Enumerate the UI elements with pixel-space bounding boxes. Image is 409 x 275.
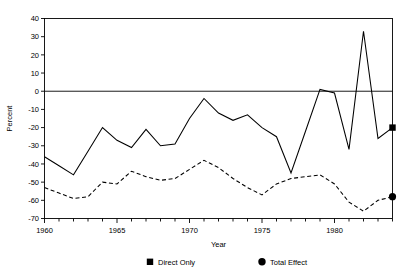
x-tick-label: 1970 [181, 226, 198, 235]
y-tick-label: 0 [35, 87, 39, 96]
x-tick-label: 1960 [36, 226, 53, 235]
x-tick-label: 1980 [326, 226, 343, 235]
y-tick-label: 10 [31, 69, 39, 78]
y-tick-label: -70 [28, 214, 39, 223]
chart-container: -70-60-50-40-30-20-10010203040 196019651… [0, 0, 409, 275]
end-marker-square-direct-only [389, 124, 395, 130]
legend-marker-circle [258, 258, 265, 265]
y-axis-ticks: -70-60-50-40-30-20-10010203040 [28, 14, 44, 223]
y-tick-label: -20 [28, 123, 39, 132]
legend-label-total-effect: Total Effect [270, 258, 308, 267]
y-axis-title: Percent [5, 105, 14, 132]
y-tick-label: -60 [28, 196, 39, 205]
x-tick-label: 1965 [109, 226, 126, 235]
y-tick-label: -50 [28, 178, 39, 187]
percent-by-year-line-chart: -70-60-50-40-30-20-10010203040 196019651… [0, 0, 409, 275]
plot-border [45, 19, 393, 219]
legend-label-direct-only: Direct Only [158, 258, 195, 267]
y-tick-label: 30 [31, 32, 39, 41]
y-tick-label: 40 [31, 14, 39, 23]
series-line-direct-only [45, 31, 393, 175]
y-tick-label: -40 [28, 160, 39, 169]
x-axis-ticks: 19601965197019751980 [36, 219, 392, 235]
y-tick-label: -30 [28, 141, 39, 150]
y-tick-label: 20 [31, 51, 39, 60]
series-line-total-effect [45, 160, 393, 211]
legend-marker-square [147, 259, 153, 265]
end-marker-circle-total-effect [389, 193, 396, 200]
data-series-group [45, 31, 393, 211]
x-tick-label: 1975 [254, 226, 271, 235]
y-tick-label: -10 [28, 105, 39, 114]
x-axis-title: Year [211, 240, 227, 249]
plot-frame [45, 19, 393, 219]
chart-legend: Direct OnlyTotal Effect [147, 258, 308, 267]
